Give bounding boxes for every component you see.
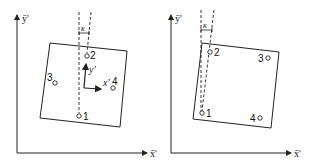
- point-2-label: 2: [90, 50, 96, 61]
- x-axis-label: x̄': [150, 148, 157, 159]
- x-axis-label: x̄': [294, 148, 301, 159]
- y-axis-label: ȳ': [175, 13, 182, 24]
- fiducial-point-1: [200, 111, 204, 115]
- local-x-label: x': [102, 77, 110, 88]
- left-panel: ȳ' x̄' κ y' x' 1 2 3 4: [17, 12, 157, 159]
- diagram-canvas: ȳ' x̄' κ y' x' 1 2 3 4 ȳ' x̄' κ: [0, 0, 322, 164]
- kappa-label: κ: [203, 21, 207, 30]
- local-y-label: y': [88, 64, 96, 75]
- point-2-label: 2: [214, 47, 220, 58]
- point-1-label: 1: [206, 108, 212, 119]
- local-y-axis-arrow: [84, 64, 86, 88]
- point-1-label: 1: [83, 111, 89, 122]
- fiducial-point-2: [85, 54, 89, 58]
- point-3-label: 3: [258, 53, 264, 64]
- point-3-label: 3: [47, 72, 53, 83]
- local-x-axis-arrow: [84, 88, 101, 89]
- fiducial-point-1: [77, 114, 81, 118]
- fiducial-point-3: [53, 81, 57, 85]
- right-panel: ȳ' x̄' κ 1 2 3 4: [171, 10, 301, 159]
- point-4-label: 4: [112, 76, 118, 87]
- fiducial-point-2: [208, 50, 212, 54]
- y-axis-label: ȳ': [22, 13, 29, 24]
- fiducial-point-3: [266, 56, 270, 60]
- point-4-label: 4: [250, 113, 256, 124]
- fiducial-point-4: [258, 116, 262, 120]
- kappa-label: κ: [81, 24, 85, 33]
